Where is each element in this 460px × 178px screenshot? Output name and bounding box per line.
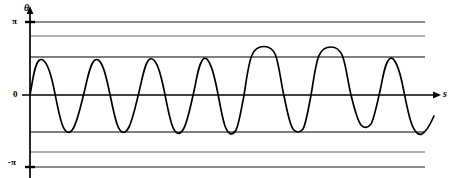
theta-curve-group <box>30 47 434 135</box>
theta-curve <box>30 47 434 135</box>
x-axis-arrowhead <box>433 92 441 99</box>
y-tick-label-pi: π <box>12 17 17 26</box>
x-axis-label: s <box>443 89 447 99</box>
phase-plot-figure: θ s π 0 -π <box>0 0 460 178</box>
y-tick-label-neg-pi: -π <box>8 158 16 167</box>
y-axis-label: θ <box>24 3 29 13</box>
plot-canvas <box>0 0 460 178</box>
y-tick-label-zero: 0 <box>13 90 18 99</box>
